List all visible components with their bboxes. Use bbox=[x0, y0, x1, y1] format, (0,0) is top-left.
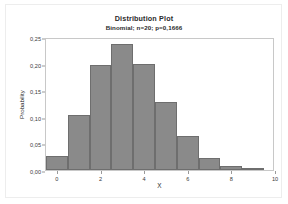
bar bbox=[68, 115, 90, 170]
y-axis-title: Probability bbox=[16, 38, 27, 171]
y-tick-label: 0,15 bbox=[30, 89, 41, 95]
x-tick-mark bbox=[101, 171, 102, 174]
bar bbox=[90, 65, 112, 170]
bar bbox=[155, 102, 177, 170]
bar bbox=[242, 168, 264, 170]
chart-title: Distribution Plot bbox=[0, 14, 288, 23]
bar bbox=[46, 156, 68, 170]
bars-container bbox=[46, 39, 273, 170]
plot-area bbox=[45, 38, 274, 171]
bar bbox=[111, 44, 133, 170]
bar bbox=[220, 166, 242, 170]
chart-subtitle: Binomial; n=20; p=0,1666 bbox=[0, 23, 288, 32]
x-tick-mark bbox=[231, 171, 232, 174]
y-tick-label: 0,20 bbox=[30, 63, 41, 69]
bar bbox=[199, 158, 221, 170]
bar bbox=[133, 64, 155, 170]
distribution-plot-figure: Distribution Plot Binomial; n=20; p=0,16… bbox=[0, 0, 288, 204]
x-tick-mark bbox=[188, 171, 189, 174]
y-tick-label: 0,10 bbox=[30, 116, 41, 122]
x-tick-mark bbox=[275, 171, 276, 174]
y-tick-label: 0,00 bbox=[30, 169, 41, 175]
y-tick-label: 0,25 bbox=[30, 36, 41, 42]
y-tick-label: 0,05 bbox=[30, 142, 41, 148]
x-tick-mark bbox=[57, 171, 58, 174]
title-block: Distribution Plot Binomial; n=20; p=0,16… bbox=[0, 14, 288, 32]
x-tick-mark bbox=[144, 171, 145, 174]
bar bbox=[177, 136, 199, 170]
x-axis-title: X bbox=[45, 182, 274, 189]
